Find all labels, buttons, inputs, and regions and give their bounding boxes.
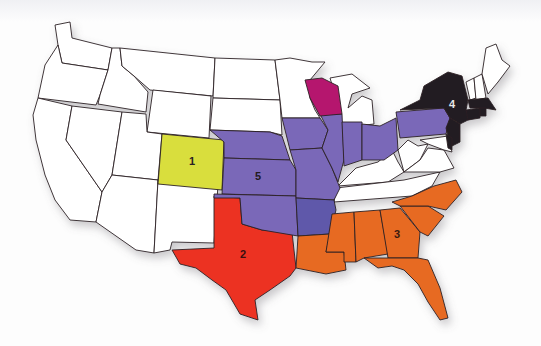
state-wyoming bbox=[147, 90, 211, 138]
map-page: 1 2 3 4 5 bbox=[0, 0, 541, 346]
state-new-mexico bbox=[154, 180, 218, 253]
state-connecticut bbox=[466, 108, 480, 120]
state-ohio bbox=[362, 118, 398, 160]
region-label-4: 4 bbox=[449, 98, 456, 110]
state-indiana bbox=[342, 122, 362, 166]
region-label-2: 2 bbox=[240, 248, 246, 260]
state-north-dakota bbox=[213, 58, 280, 100]
state-maine bbox=[482, 44, 510, 94]
state-florida bbox=[364, 258, 448, 320]
state-pennsylvania bbox=[396, 108, 450, 138]
state-iowa bbox=[282, 118, 328, 150]
us-region-map: 1 2 3 4 5 bbox=[0, 0, 541, 346]
state-arizona bbox=[96, 175, 158, 253]
state-rhode-island bbox=[480, 108, 486, 116]
state-south-dakota bbox=[210, 98, 282, 135]
region-label-3: 3 bbox=[394, 228, 400, 240]
region-label-1: 1 bbox=[189, 155, 195, 167]
region-label-5: 5 bbox=[255, 170, 261, 182]
